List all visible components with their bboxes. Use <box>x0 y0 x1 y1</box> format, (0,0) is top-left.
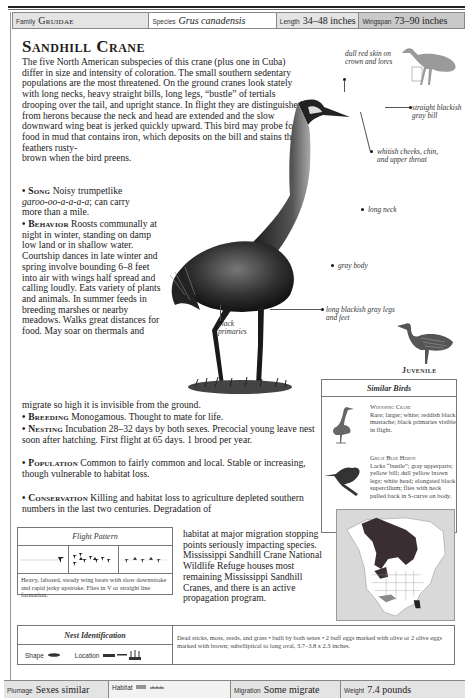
nest-shape-location-row: Shape Location <box>18 645 172 665</box>
migration-cell: Migration Some migrate <box>231 681 341 698</box>
platform-nest-icon <box>47 652 61 658</box>
nest-location-label: Location <box>75 652 100 659</box>
length-value: 34–48 inches <box>303 15 356 26</box>
weight-cell: Weight 7.4 pounds <box>341 681 465 698</box>
great-blue-heron-name: Great Blue Heron <box>370 454 415 461</box>
callout-body: gray body <box>338 262 388 270</box>
callout-neck: long neck <box>368 206 418 214</box>
habitat-label: Habitat <box>112 684 133 691</box>
conservation-heading: • Conservation <box>22 492 88 503</box>
whooping-crane-name: Whooping Crane <box>370 403 411 410</box>
plumage-value: Sexes similar <box>36 684 90 695</box>
great-blue-heron-desc: Lacks “bustle”; gray upperparts; yellow … <box>370 462 455 499</box>
nest-identification-left: Nest Identification Shape Location <box>18 626 173 664</box>
callout-bill-line <box>385 107 409 108</box>
nest-identification-title: Nest Identification <box>18 626 172 645</box>
great-blue-heron-text: Great Blue Heron Lacks “bustle”; gray up… <box>370 454 456 500</box>
song-call: garoo-oo-a-a-a-a <box>22 196 89 207</box>
similar-bird-whooping-crane: Whooping Crane Rare; larger; white; redd… <box>322 401 456 453</box>
behavior-heading: • Behavior <box>22 218 69 229</box>
sandhill-crane-illustration <box>140 95 355 395</box>
nest-description: Dead sticks, moss, reeds, and grass • bu… <box>173 626 454 664</box>
wingspan-value: 73–90 inches <box>394 15 447 26</box>
species-cell: Species Grus canadensis <box>149 13 276 28</box>
nesting-heading: • Nesting <box>22 423 63 434</box>
flight-v-formation <box>69 546 119 573</box>
flight-pattern-title: Flight Pattern <box>18 528 172 546</box>
nest-identification-box: Nest Identification Shape Location Dead … <box>17 625 455 665</box>
callout-legs: long blackish gray legs and feet <box>326 306 396 322</box>
conservation-continued: habitat at major migration stopping poin… <box>183 529 328 604</box>
wingspan-label: Wingspan <box>362 18 391 25</box>
whooping-crane-icon <box>328 405 360 445</box>
population-section: • Population Common to fairly common and… <box>22 458 316 479</box>
callout-primaries: black primaries <box>218 320 258 336</box>
intro-end: brown when the bird preens. <box>22 152 132 163</box>
weight-value: 7.4 pounds <box>367 684 411 695</box>
flight-pattern-box: Flight Pattern <box>17 527 173 595</box>
callout-legs-dot <box>321 308 324 311</box>
line-formation-icon <box>119 546 171 574</box>
flight-line-formation <box>119 546 172 573</box>
song-heading: • Song <box>22 185 50 196</box>
callout-crown-line <box>344 80 345 92</box>
nest-shape-label: Shape <box>25 652 44 659</box>
single-flight-icon <box>18 546 69 574</box>
nesting-section: • Nesting Incubation 28–32 days by both … <box>22 424 316 445</box>
plumage-cell: Plumage Sexes similar <box>4 681 109 698</box>
page-title: Sandhill Crane <box>22 37 145 57</box>
migration-label: Migration <box>234 687 261 694</box>
breeding-text: Monogamous. Thought to mate for life. <box>69 411 223 422</box>
breeding-section: • Breeding Monogamous. Thought to mate f… <box>22 412 322 423</box>
conservation-section: • Conservation Killing and habitat loss … <box>22 493 334 514</box>
great-blue-heron-icon <box>324 462 364 498</box>
flight-single <box>18 546 69 573</box>
callout-bill: straight blackish gray bill <box>412 104 462 120</box>
species-label: Species <box>152 18 175 25</box>
wingspan-cell: Wingspan 73–90 inches <box>359 13 464 28</box>
ground-location-icon <box>103 652 115 658</box>
migration-value: Some migrate <box>264 684 320 695</box>
size-comparison-silhouette <box>400 45 460 90</box>
breeding-heading: • Breeding <box>22 411 69 422</box>
juvenile-label: Juvenile <box>402 366 437 375</box>
callout-primaries-dot <box>219 321 222 324</box>
footer-bar: Plumage Sexes similar Habitat Migration … <box>4 680 465 698</box>
plumage-label: Plumage <box>7 687 33 694</box>
flight-pattern-desc: Heavy, labored, steady wing beats with s… <box>18 574 172 601</box>
top-rule <box>8 6 465 8</box>
top-rule-thin <box>8 9 465 10</box>
habitat-marsh-icon <box>136 684 146 690</box>
callout-primaries-line <box>220 305 221 321</box>
callout-body-dot <box>331 264 334 267</box>
callout-bill-dot <box>409 106 412 109</box>
family-value: Gruidae <box>38 15 74 26</box>
callout-crown: dull red skin on crown and lores <box>345 50 395 66</box>
habitat-wetland-icon <box>150 684 164 690</box>
habitat-cell: Habitat <box>109 681 231 698</box>
length-cell: Length 34–48 inches <box>277 13 360 28</box>
population-heading: • Population <box>22 457 78 468</box>
species-value: Grus canadensis <box>179 15 246 26</box>
range-map <box>336 509 455 621</box>
callout-legs-line <box>270 309 321 310</box>
song-section: • Song Noisy trumpetlike garoo-oo-a-a-a-… <box>22 186 137 218</box>
water-location-icon <box>117 652 127 658</box>
song-text: Noisy trumpetlike <box>50 185 122 196</box>
info-bar: Family Gruidae Species Grus canadensis L… <box>12 12 465 29</box>
callout-cheeks: whitish cheeks, chin, and upper throat <box>377 148 447 164</box>
behavior-end: migrate so high it is invisible from the… <box>22 400 312 411</box>
whooping-crane-desc: Rare; larger; white; reddish black musta… <box>370 411 456 433</box>
weight-label: Weight <box>344 687 364 694</box>
similar-birds-title: Similar Birds <box>322 380 456 397</box>
callout-neck-dot <box>361 208 364 211</box>
family-cell: Family Gruidae <box>13 13 149 28</box>
whooping-crane-text: Whooping Crane Rare; larger; white; redd… <box>370 403 456 433</box>
marsh-location-icon <box>129 649 141 661</box>
v-formation-icon <box>69 546 119 574</box>
juvenile-illustration <box>395 320 457 368</box>
family-label: Family <box>16 18 35 25</box>
flight-pattern-diagrams <box>18 546 172 574</box>
length-label: Length <box>280 18 300 25</box>
nesting-text: Incubation 28–32 days by both sexes. Pre… <box>22 423 315 445</box>
